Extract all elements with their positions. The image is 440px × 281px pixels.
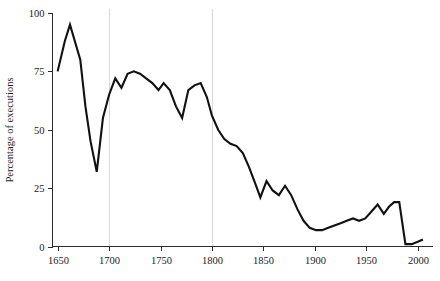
y-tick-label-0: 0 [39, 242, 44, 253]
x-tick-label-1650: 1650 [48, 255, 69, 266]
x-tick-label-2000: 2000 [408, 255, 429, 266]
execution-percentage-line-chart: 0255075100 16501700175018001850190019502… [0, 0, 440, 281]
x-tick-label-1800: 1800 [202, 255, 223, 266]
chart-container: 0255075100 16501700175018001850190019502… [0, 0, 440, 281]
chart-background [0, 0, 440, 281]
y-axis-title: Percentage of executions [4, 78, 15, 183]
x-tick-label-1700: 1700 [99, 255, 120, 266]
x-tick-label-1850: 1850 [253, 255, 274, 266]
x-tick-label-1900: 1900 [305, 255, 326, 266]
y-tick-label-100: 100 [29, 8, 45, 19]
y-tick-label-50: 50 [34, 125, 45, 136]
x-tick-label-1750: 1750 [151, 255, 172, 266]
x-tick-label-1950: 1950 [356, 255, 377, 266]
y-tick-label-75: 75 [34, 66, 45, 77]
y-tick-label-25: 25 [34, 183, 45, 194]
